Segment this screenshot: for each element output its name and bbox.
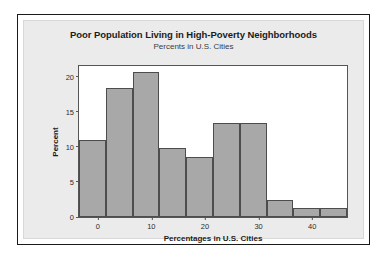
histogram-bar <box>320 208 347 217</box>
chart-title: Poor Population Living in High-Poverty N… <box>24 29 363 40</box>
plot-area: 05101520 010203040 Percent Percentages i… <box>78 65 348 218</box>
chart-figure: Poor Population Living in High-Poverty N… <box>17 14 370 245</box>
histogram-bar <box>267 200 294 217</box>
y-axis-tick-label: 15 <box>66 107 79 116</box>
histogram-bar <box>159 148 186 217</box>
histogram-bar <box>240 123 267 217</box>
x-axis-tick-label: 10 <box>147 222 155 231</box>
histogram-bar <box>186 157 213 217</box>
x-axis-label: Percentages in U.S. Cities <box>79 234 347 243</box>
histogram-bars <box>79 66 347 217</box>
x-axis-tick-label: 30 <box>254 222 262 231</box>
y-axis-tick-label: 5 <box>70 177 79 186</box>
x-axis-tick-label: 40 <box>308 222 316 231</box>
x-axis-tick-label: 0 <box>96 222 100 231</box>
y-axis-tick-label: 10 <box>66 142 79 151</box>
y-axis-tick-label: 0 <box>70 213 79 222</box>
chart-subtitle: Percents in U.S. Cities <box>24 42 363 51</box>
y-axis-label: Percent <box>51 127 60 156</box>
x-axis-tick-label: 20 <box>201 222 209 231</box>
chart-panel: Poor Population Living in High-Poverty N… <box>23 20 364 239</box>
y-axis-tick-label: 20 <box>66 72 79 81</box>
histogram-bar <box>293 208 320 217</box>
histogram-bar <box>79 140 106 217</box>
histogram-bar <box>106 88 133 217</box>
histogram-bar <box>133 72 160 217</box>
histogram-bar <box>213 123 240 217</box>
